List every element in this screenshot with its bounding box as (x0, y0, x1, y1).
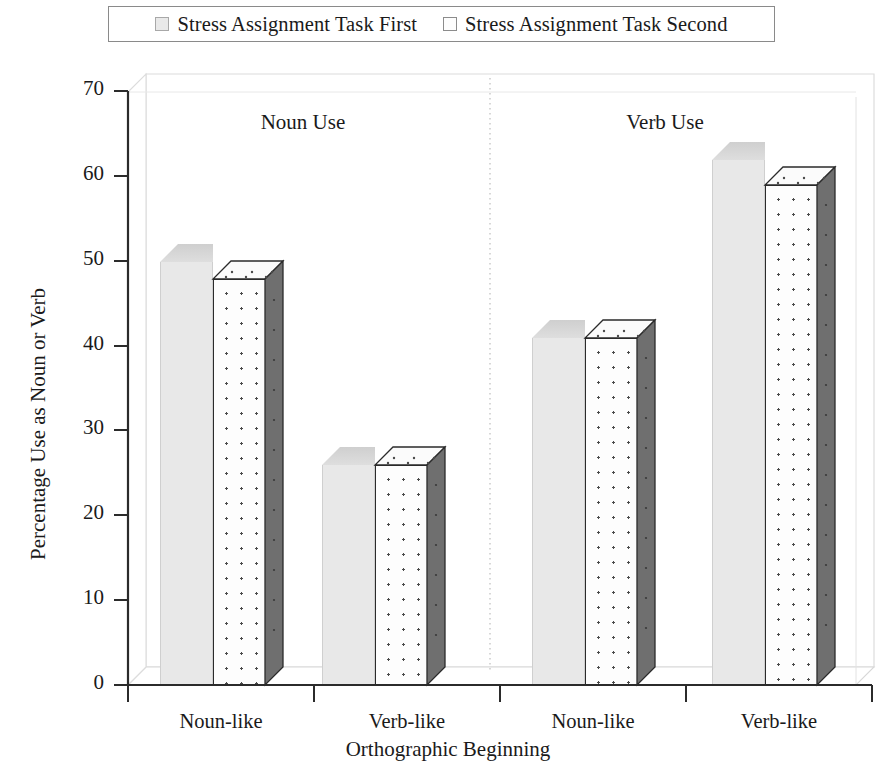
panel-label-noun-use: Noun Use (203, 110, 403, 135)
ytick-label: 60 (58, 161, 104, 186)
ytick-label: 40 (58, 331, 104, 356)
figure-root: Stress Assignment Task First Stress Assi… (0, 0, 896, 761)
ytick-label: 70 (58, 76, 104, 101)
ytick-label: 0 (58, 670, 104, 695)
xtick-label: Verb-like (332, 710, 482, 733)
xtick-label: Noun-like (146, 710, 296, 733)
ytick-label: 10 (58, 585, 104, 610)
ytick-label: 20 (58, 500, 104, 525)
y-axis-title: Percentage Use as Noun or Verb (26, 288, 51, 560)
xtick-label: Verb-like (704, 710, 854, 733)
xtick-label: Noun-like (518, 710, 668, 733)
x-axis-title: Orthographic Beginning (0, 737, 896, 761)
panel-label-verb-use: Verb Use (565, 110, 765, 135)
plot-area: 70 60 50 40 30 20 10 0 Noun-like Verb-li… (0, 0, 896, 761)
ytick-label: 30 (58, 415, 104, 440)
ytick-label: 50 (58, 246, 104, 271)
